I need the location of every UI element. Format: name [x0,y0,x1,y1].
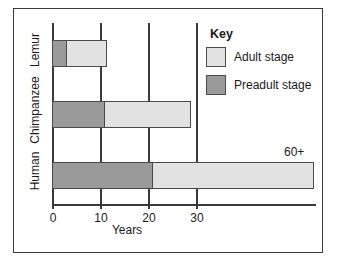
bar-segment-chimpanzee-preadult [52,101,105,128]
x-tick-mark-10 [100,204,102,209]
bar-segment-chimpanzee-adult [104,101,191,128]
x-tick-mark-20 [148,204,150,209]
bar-segment-lemur-preadult [52,40,67,67]
x-axis-title: Years [52,223,202,237]
chart-legend: Key Adult stage Preadult stage [206,27,324,103]
chart-figure-frame: Lemur Chimpanzee Human 60+ 0 [13,8,323,253]
legend-item-adult: Adult stage [206,47,324,67]
bar-row-lemur [52,40,107,67]
y-axis-label-chimpanzee: Chimpanzee [28,73,42,147]
bar-segment-lemur-adult [66,40,107,67]
x-tick-mark-0 [52,204,54,209]
legend-swatch-preadult-icon [206,75,226,95]
legend-swatch-adult-icon [206,47,226,67]
bar-segment-human-adult [152,162,314,189]
bar-annotation-human-total: 60+ [284,145,304,159]
x-tick-mark-30 [196,204,198,209]
y-axis-label-lemur: Lemur [28,20,42,80]
y-axis-label-human: Human [28,139,42,203]
bar-row-chimpanzee [52,101,191,128]
legend-label-preadult: Preadult stage [234,78,311,92]
bar-segment-human-preadult [52,162,153,189]
x-axis-line [52,204,316,206]
legend-item-preadult: Preadult stage [206,75,324,95]
legend-label-adult: Adult stage [234,50,294,64]
legend-title: Key [210,27,324,41]
bar-row-human [52,162,314,189]
